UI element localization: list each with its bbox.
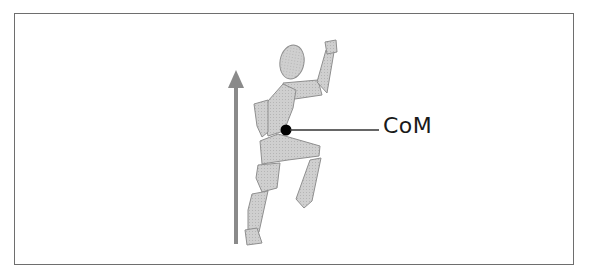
back-arm — [254, 100, 268, 137]
front-shin — [296, 158, 321, 208]
head — [277, 43, 307, 81]
back-thigh — [256, 163, 280, 192]
fist — [325, 40, 337, 54]
torso — [264, 84, 296, 136]
running-figure-diagram — [0, 0, 592, 273]
com-label: CoM — [383, 113, 432, 138]
upward-arrow-icon — [228, 70, 244, 244]
center-of-mass-dot — [281, 125, 292, 136]
running-figure — [245, 40, 337, 245]
